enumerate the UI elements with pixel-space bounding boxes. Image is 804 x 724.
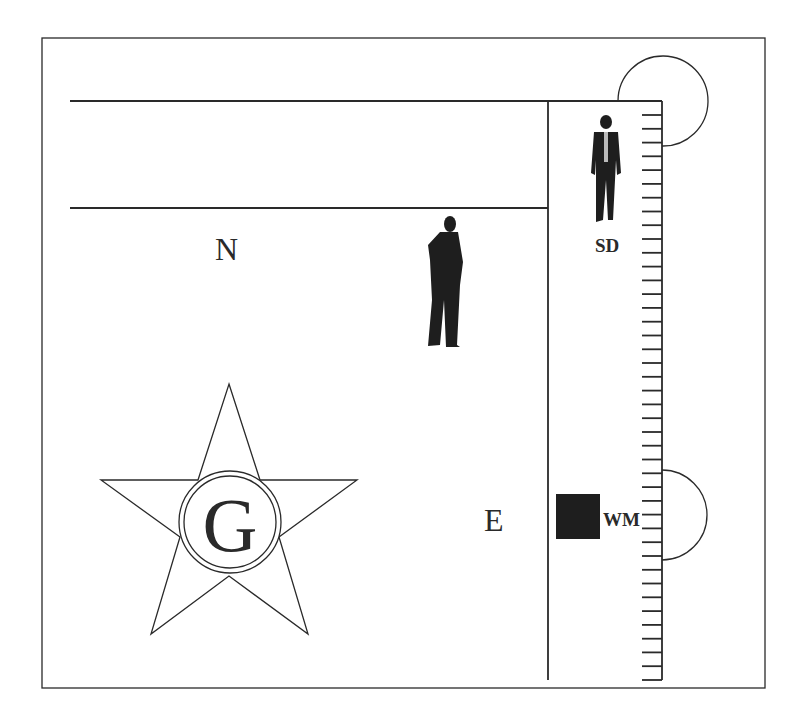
floor-plan-diagram: G N E SD WM — [0, 0, 804, 724]
ruler-ticks — [642, 115, 662, 680]
label-wm: WM — [603, 509, 640, 530]
label-north: N — [215, 231, 238, 267]
man-suit-icon — [591, 115, 621, 222]
wm-square-icon — [556, 494, 600, 539]
emblem-letter: G — [203, 483, 258, 567]
man-side-icon — [428, 216, 463, 347]
label-east: E — [484, 502, 504, 538]
label-sd: SD — [595, 235, 619, 256]
door-arc-bottom-icon — [662, 470, 707, 560]
